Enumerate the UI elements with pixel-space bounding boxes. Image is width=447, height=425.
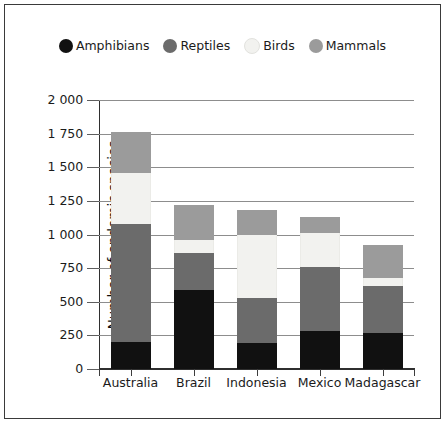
bar-segment-reptiles[interactable] [237, 298, 277, 343]
legend-item-label: Mammals [326, 40, 386, 53]
bar-australia[interactable] [111, 132, 151, 369]
y-axis-tick [87, 201, 99, 202]
bar-mexico[interactable] [300, 217, 340, 369]
x-axis-tick-label: Mexico [298, 375, 342, 390]
y-axis-tick-label: 1 500 [47, 159, 83, 174]
y-axis-tick [87, 235, 99, 236]
bar-segment-birds[interactable] [300, 233, 340, 267]
bar-segment-birds[interactable] [237, 235, 277, 298]
bar-segment-amphibians[interactable] [363, 333, 403, 369]
y-axis-tick-label: 1 250 [47, 193, 83, 208]
y-axis-tick-label: 1 750 [47, 126, 83, 141]
bar-segment-mammals[interactable] [237, 210, 277, 235]
y-axis-tick-label: 2 000 [47, 92, 83, 107]
y-axis-tick-label: 0 [75, 361, 83, 376]
bar-segment-amphibians[interactable] [174, 290, 214, 369]
plot-area: 02505007501 0001 2501 5001 7502 000Austr… [99, 100, 414, 369]
y-axis-tick-label: 500 [59, 294, 83, 309]
bar-segment-mammals[interactable] [363, 245, 403, 277]
bar-segment-mammals[interactable] [174, 205, 214, 240]
chart-legend: AmphibiansReptilesBirdsMammals [5, 38, 440, 54]
legend-item-reptiles: Reptiles [163, 39, 230, 53]
circle-marker-icon [244, 38, 260, 54]
legend-item-label: Birds [263, 40, 294, 53]
bar-indonesia[interactable] [237, 210, 277, 369]
bar-madagascar[interactable] [363, 245, 403, 369]
bar-segment-birds[interactable] [174, 240, 214, 253]
x-axis-tick-label: Indonesia [226, 375, 286, 390]
y-axis-tick-label: 1 000 [47, 227, 83, 242]
y-axis-tick [87, 369, 99, 370]
bar-segment-birds[interactable] [111, 173, 151, 224]
y-axis-tick [87, 302, 99, 303]
y-axis-tick-label: 750 [59, 260, 83, 275]
legend-item-label: Reptiles [180, 40, 230, 53]
y-axis-tick [87, 100, 99, 101]
x-axis-boundary-tick [99, 369, 100, 376]
bar-segment-amphibians[interactable] [237, 343, 277, 369]
bar-segment-reptiles[interactable] [363, 286, 403, 333]
legend-item-label: Amphibians [76, 40, 150, 53]
y-axis-tick-label: 250 [59, 328, 83, 343]
y-axis-tick [87, 167, 99, 168]
chart-frame: AmphibiansReptilesBirdsMammals Number of… [4, 4, 441, 419]
y-axis-tick [87, 335, 99, 336]
x-axis-tick-label: Madagascar [345, 375, 421, 390]
circle-marker-icon [309, 39, 323, 53]
x-axis-boundary-tick [414, 369, 415, 376]
gridline [99, 100, 414, 101]
bar-segment-mammals[interactable] [300, 217, 340, 233]
legend-item-amphibians: Amphibians [59, 39, 150, 53]
bar-segment-reptiles[interactable] [300, 267, 340, 332]
y-axis-tick [87, 268, 99, 269]
circle-marker-icon [59, 39, 73, 53]
bar-segment-reptiles[interactable] [174, 253, 214, 289]
bar-segment-amphibians[interactable] [111, 342, 151, 369]
legend-item-mammals: Mammals [309, 39, 386, 53]
x-axis-tick-label: Brazil [176, 375, 211, 390]
x-axis-tick-label: Australia [103, 375, 158, 390]
bar-segment-amphibians[interactable] [300, 331, 340, 369]
circle-marker-icon [163, 39, 177, 53]
legend-item-birds: Birds [244, 38, 294, 54]
bar-segment-birds[interactable] [363, 278, 403, 286]
y-axis-tick [87, 134, 99, 135]
bar-segment-reptiles[interactable] [111, 224, 151, 342]
bar-segment-mammals[interactable] [111, 132, 151, 172]
bar-brazil[interactable] [174, 205, 214, 369]
